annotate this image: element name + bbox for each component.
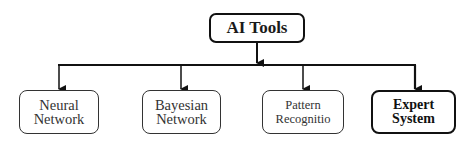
node-bayesian-network: Bayesian Network [142, 90, 221, 134]
node-label-line: Network [34, 112, 85, 126]
node-pattern-recognition: Pattern Recognitio [262, 90, 344, 134]
root-node-label: AI Tools [227, 21, 288, 35]
node-label-line: Pattern [276, 98, 331, 112]
node-label-line: Network [155, 112, 208, 126]
node-label-line: Recognitio [276, 112, 331, 126]
node-label-line: Expert [392, 98, 435, 112]
node-expert-system: Expert System [371, 90, 456, 134]
node-label-line: System [392, 112, 435, 126]
node-label-line: Neural [34, 98, 85, 112]
node-neural-network: Neural Network [19, 90, 99, 134]
root-node-ai-tools: AI Tools [209, 13, 305, 43]
node-label-line: Bayesian [155, 98, 208, 112]
